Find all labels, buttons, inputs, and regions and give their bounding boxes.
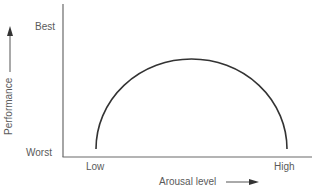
x-tick-high: High	[274, 162, 295, 172]
inverted-u-curve	[96, 59, 287, 149]
up-arrow-icon	[7, 26, 13, 36]
x-tick-low: Low	[86, 162, 104, 172]
right-arrow-icon	[249, 179, 259, 185]
y-tick-worst: Worst	[26, 148, 52, 158]
x-axis-label: Arousal level	[159, 177, 216, 187]
y-tick-best: Best	[35, 22, 55, 32]
y-axis-label: Performance	[3, 78, 14, 135]
